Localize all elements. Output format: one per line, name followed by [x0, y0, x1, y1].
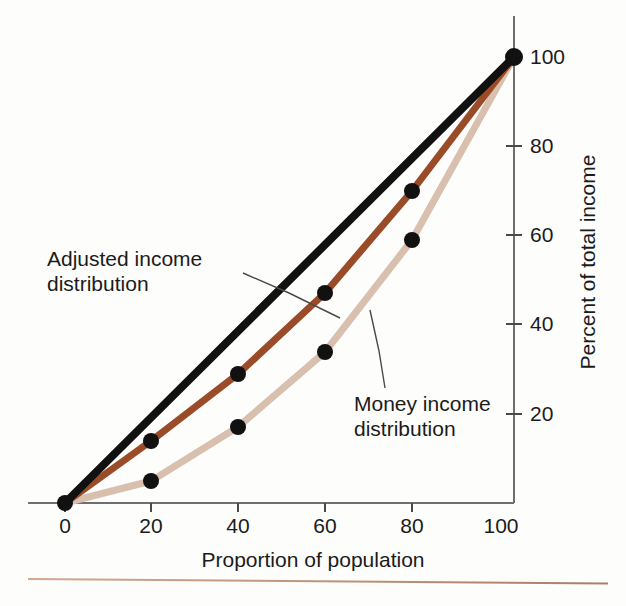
marker-adjusted-40	[230, 366, 246, 382]
y-tick-label-100: 100	[530, 45, 565, 69]
leader-line-money	[370, 310, 385, 388]
annotation-money-income-distribution: Money income distribution	[354, 391, 491, 441]
y-tick-label-40: 40	[530, 312, 553, 336]
y-tick-label-20: 20	[530, 402, 553, 426]
annotation-adjusted-income-distribution: Adjusted income distribution	[47, 246, 202, 296]
x-tick-label-20: 20	[139, 514, 162, 538]
x-axis-ticks	[65, 503, 412, 512]
y-tick-label-80: 80	[530, 134, 553, 158]
annotation-leader-lines	[243, 273, 385, 388]
marker-adjusted-80	[404, 183, 420, 199]
marker-money-20	[143, 473, 159, 489]
x-tick-label-0: 0	[59, 514, 71, 538]
x-axis-title: Proportion of population	[202, 548, 425, 572]
x-tick-label-60: 60	[313, 514, 336, 538]
marker-adjusted-20	[143, 433, 159, 449]
chart-figure: 0 20 40 60 80 100 100 80 60 40 20 Propor…	[0, 0, 626, 606]
marker-origin	[57, 495, 73, 511]
marker-endpoint-100	[505, 48, 523, 66]
x-tick-label-100: 100	[483, 514, 518, 538]
marker-money-60	[317, 344, 333, 360]
marker-money-40	[230, 419, 246, 435]
marker-adjusted-60	[317, 285, 333, 301]
x-tick-label-40: 40	[226, 514, 249, 538]
y-axis-title: Percent of total income	[576, 155, 600, 370]
x-tick-label-80: 80	[400, 514, 423, 538]
y-tick-label-60: 60	[530, 223, 553, 247]
marker-money-80	[404, 232, 420, 248]
